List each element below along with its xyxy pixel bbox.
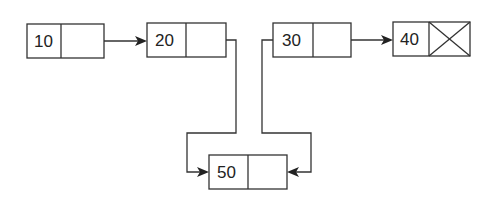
node-50: 50 — [209, 155, 287, 189]
node-value: 20 — [155, 31, 174, 50]
node-value: 30 — [282, 31, 301, 50]
arrow-30-to-40 — [351, 35, 393, 45]
node-10: 10 — [27, 24, 104, 58]
arrow-10-to-20 — [104, 36, 147, 46]
node-value: 10 — [34, 32, 53, 51]
node-20: 20 — [147, 23, 226, 57]
linked-list-diagram: 10 20 30 40 50 — [0, 0, 488, 199]
node-value: 40 — [400, 30, 419, 49]
node-30: 30 — [273, 23, 351, 57]
node-value: 50 — [217, 163, 236, 182]
node-40: 40 — [393, 22, 470, 56]
